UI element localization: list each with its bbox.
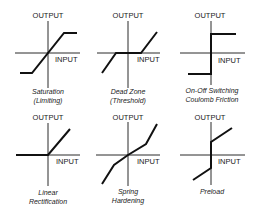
on-off-curve [188, 34, 236, 74]
panel-spring-hardening: OUTPUT INPUT Spring Hardening [96, 113, 160, 205]
caption-line1: On-Off Switching [186, 87, 239, 95]
panel-on-off-switching: OUTPUT INPUT On-Off Switching Coulomb Fr… [180, 11, 245, 103]
output-axis-label: OUTPUT [113, 113, 144, 122]
input-axis-label: INPUT [55, 55, 78, 64]
caption-line1: Preload [200, 188, 225, 195]
caption-line1: Spring [118, 188, 138, 196]
output-axis-label: OUTPUT [195, 11, 226, 20]
output-axis-label: OUTPUT [33, 11, 64, 20]
output-axis-label: OUTPUT [113, 11, 144, 20]
hardening-curve [102, 124, 157, 184]
caption-line2: Rectification [29, 198, 67, 205]
caption-line2: (Limiting) [34, 97, 63, 105]
caption-line1: Dead Zone [111, 88, 146, 95]
panel-dead-zone: OUTPUT INPUT Dead Zone (Threshold) [97, 11, 160, 105]
rectification-curve [16, 129, 70, 155]
caption-line2: Coulomb Friction [186, 96, 239, 103]
caption-line2: (Threshold) [110, 97, 146, 105]
input-axis-label: INPUT [218, 56, 241, 65]
caption-line1: Saturation [32, 88, 64, 95]
input-axis-label: INPUT [137, 55, 160, 64]
output-axis-label: OUTPUT [195, 113, 226, 122]
panel-preload: OUTPUT INPUT Preload [180, 113, 245, 195]
input-axis-label: INPUT [137, 157, 160, 166]
input-axis-label: INPUT [218, 157, 241, 166]
panel-linear-rectification: OUTPUT INPUT Linear Rectification [16, 113, 80, 205]
output-axis-label: OUTPUT [33, 113, 64, 122]
panel-saturation: OUTPUT INPUT Saturation (Limiting) [15, 11, 80, 105]
input-axis-label: INPUT [56, 157, 79, 166]
nonlinearity-diagram: OUTPUT INPUT Saturation (Limiting) OUTPU… [0, 0, 256, 218]
caption-line1: Linear [38, 189, 58, 196]
preload-curve [193, 128, 232, 180]
caption-line2: Hardening [112, 197, 144, 205]
